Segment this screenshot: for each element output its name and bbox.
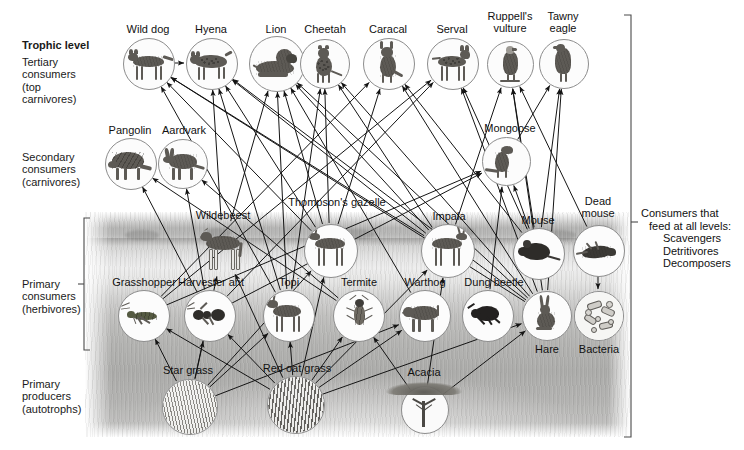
organism-serval[interactable] (427, 38, 479, 90)
label-aardvark: Aardvark (153, 124, 215, 136)
label-wildebeest: Wildebeest (189, 209, 257, 221)
food-web-diagram: Trophic level Tertiary consumers (top ca… (0, 0, 744, 450)
label-impala: Impala (424, 210, 474, 222)
organism-warthog[interactable] (399, 290, 451, 342)
organism-hyena[interactable] (186, 38, 238, 90)
food-chain-arrow (213, 90, 222, 220)
organism-ruppells-vulture[interactable] (487, 41, 534, 88)
label-termite: Termite (333, 276, 385, 288)
label-thompsons-gazelle: Thompson's gazelle (283, 196, 391, 208)
organism-tawny-eagle[interactable] (539, 39, 589, 89)
organism-dead-mouse[interactable] (573, 225, 625, 277)
label-dung-beetle: Dung beetle (459, 276, 529, 288)
label-dead-mouse: Dead mouse (574, 196, 622, 219)
label-tawny-eagle: Tawny eagle (538, 11, 588, 34)
label-topi: Topi (268, 276, 310, 288)
label-grasshopper: Grasshopper (109, 276, 179, 288)
label-mongoose: Mongoose (478, 122, 542, 134)
level-secondary-label: Secondary consumers (carnivores) (22, 151, 80, 188)
organism-star-grass[interactable] (162, 379, 218, 435)
food-chain-arrow (231, 91, 268, 221)
organism-lion[interactable] (249, 36, 305, 92)
organism-impala[interactable] (421, 224, 475, 278)
label-red-oat-grass: Red oat grass (251, 362, 343, 374)
trophic-level-header: Trophic level (22, 39, 89, 51)
organism-wildebeest[interactable] (196, 221, 252, 277)
organism-hare[interactable] (522, 291, 572, 341)
organism-mouse[interactable] (513, 228, 565, 280)
label-serval: Serval (424, 23, 480, 35)
level-primary-producers-label: Primary producers (autotrophs) (22, 378, 81, 415)
level-tertiary-label: Tertiary consumers (top carnivores) (22, 56, 76, 106)
organism-pangolin[interactable] (105, 138, 157, 190)
level-primary-consumers-label: Primary consumers (herbivores) (22, 278, 81, 315)
organism-cheetah[interactable] (300, 39, 350, 89)
label-caracal: Caracal (358, 23, 418, 35)
food-chain-arrow (232, 80, 426, 233)
organism-termite[interactable] (333, 290, 385, 342)
label-pangolin: Pangolin (99, 124, 161, 136)
organism-topi[interactable] (263, 290, 315, 342)
label-wild-dog: Wild dog (111, 23, 185, 35)
organism-bacteria[interactable] (574, 291, 624, 341)
all-levels-note: Consumers that feed at all levels: Scave… (641, 207, 741, 270)
label-star-grass: Star grass (152, 364, 224, 376)
organism-wild-dog[interactable] (123, 38, 175, 90)
label-ruppells-vulture: Ruppell's vulture (482, 11, 538, 34)
organism-caracal[interactable] (363, 38, 415, 90)
acacia-canopy (386, 382, 462, 395)
organism-harvester-ant[interactable] (184, 290, 236, 342)
label-acacia: Acacia (400, 366, 448, 378)
label-lion: Lion (252, 23, 300, 35)
label-warthog: Warthog (397, 276, 453, 288)
organism-mongoose[interactable] (482, 137, 531, 186)
organism-dung-beetle[interactable] (462, 290, 514, 342)
label-mouse: Mouse (514, 214, 562, 226)
organism-grasshopper[interactable] (118, 290, 170, 342)
organism-aardvark[interactable] (158, 139, 208, 189)
label-hare: Hare (526, 343, 568, 355)
organism-thompsons-gazelle[interactable] (304, 224, 358, 278)
organism-red-oat-grass[interactable] (267, 376, 325, 434)
label-bacteria: Bacteria (574, 343, 624, 355)
label-hyena: Hyena (178, 23, 244, 35)
food-chain-arrow (541, 89, 559, 227)
label-harvester-ant: Harvester ant (173, 276, 249, 288)
label-cheetah: Cheetah (296, 23, 354, 35)
food-chain-arrow (296, 84, 429, 230)
